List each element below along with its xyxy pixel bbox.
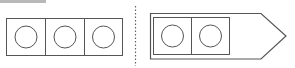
- left-strip: [7, 19, 123, 56]
- circle-icon: [93, 26, 115, 48]
- left-strip-outline: [7, 19, 123, 56]
- circle-icon: [54, 26, 76, 48]
- right-shape: [151, 14, 287, 60]
- circle-icon: [200, 25, 222, 47]
- circle-icon: [15, 26, 37, 48]
- arrow-outline: [151, 14, 287, 60]
- circle-icon: [162, 25, 184, 47]
- diagram: [0, 0, 295, 68]
